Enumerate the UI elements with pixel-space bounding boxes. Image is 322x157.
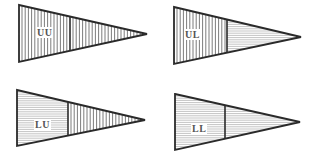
flag-label-uu: UU: [36, 27, 53, 38]
flag-label-lu: LU: [34, 119, 51, 130]
pennant-lu: [17, 88, 145, 148]
flag-label-ll: LL: [191, 123, 207, 134]
pennant-diagram: [0, 0, 322, 157]
pennant-ll: [175, 94, 300, 150]
flag-label-ul: UL: [184, 29, 201, 40]
